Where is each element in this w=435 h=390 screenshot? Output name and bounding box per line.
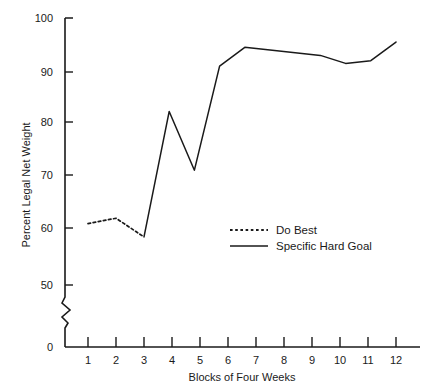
y-tick-label-70: 70: [41, 169, 53, 181]
x-tick-label-6: 6: [225, 354, 231, 366]
x-tick-label-8: 8: [281, 354, 287, 366]
x-tick-label-3: 3: [141, 354, 147, 366]
x-tick-label-7: 7: [253, 354, 259, 366]
y-tick-label-100: 100: [35, 12, 53, 24]
x-tick-label-1: 1: [85, 354, 91, 366]
x-tick-label-10: 10: [334, 354, 346, 366]
x-tick-label-2: 2: [113, 354, 119, 366]
x-tick-label-11: 11: [362, 354, 373, 366]
y-tick-label-80: 80: [41, 116, 53, 128]
x-tick-label-9: 9: [309, 354, 315, 366]
y-tick-label-0: 0: [47, 341, 53, 353]
chart-container: 100 90 80 70 60 50 0: [0, 0, 435, 390]
y-tick-label-90: 90: [41, 66, 53, 78]
y-tick-label-50: 50: [41, 279, 53, 291]
x-axis-tick-labels: 1 2 3 4 5 6 7 8 9 10 11 12: [85, 354, 402, 366]
y-tick-label-60: 60: [41, 222, 53, 234]
x-tick-label-12: 12: [390, 354, 402, 366]
legend-label-specific-hard-goal: Specific Hard Goal: [276, 240, 372, 252]
x-tick-label-4: 4: [169, 354, 175, 366]
x-tick-label-5: 5: [197, 354, 203, 366]
series-line-do-best: [88, 218, 144, 237]
legend-label-do-best: Do Best: [276, 224, 318, 236]
y-axis-spine: [62, 18, 73, 347]
y-axis-tick-labels: 100 90 80 70 60 50 0: [35, 12, 53, 353]
line-chart: 100 90 80 70 60 50 0: [0, 0, 435, 390]
y-axis-ticks: [65, 72, 73, 285]
chart-legend: Do Best Specific Hard Goal: [230, 224, 372, 252]
y-axis-title: Percent Legal Net Weight: [20, 122, 32, 247]
x-axis-title: Blocks of Four Weeks: [189, 371, 296, 383]
x-axis-ticks: [88, 337, 396, 347]
series-line-specific-hard-goal: [144, 42, 396, 237]
